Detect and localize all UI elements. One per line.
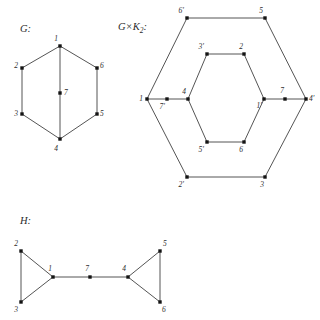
graph-g-vertex-label-2: 2	[14, 61, 18, 70]
graph-h-edge-3-1	[21, 277, 53, 302]
graph-h-edge-4-5	[128, 251, 160, 277]
graph-g-caption: G:	[20, 23, 31, 34]
graph-gk2-edge-2p-1	[147, 99, 187, 177]
graph-gk2-vertex-2	[242, 52, 245, 55]
graph-gk2-vertex-label-2: 2	[239, 42, 243, 51]
graph-g-vertex-label-4: 4	[54, 144, 58, 153]
graph-h-vertex-label-5: 5	[163, 239, 167, 248]
graph-gk2-vertex-label-3p: 3′	[198, 42, 205, 51]
graph-h-vertex-layer: 2317456	[13, 239, 167, 314]
graph-h-vertex-1	[51, 275, 54, 278]
graph-gk2-vertex-3	[263, 175, 266, 178]
graph-figure-canvas: G: G×K2: H: 1234567 6′54′32′13′21′65′47′…	[0, 0, 320, 320]
graph-g-vertex-4	[58, 137, 61, 140]
graph-gk2-vertex-layer: 6′54′32′13′21′65′47′7	[139, 6, 315, 189]
graph-h-edge-4-6	[128, 277, 160, 302]
graph-g-edge-1-2	[22, 46, 60, 68]
graph-gk2-vertex-1	[145, 97, 148, 100]
graph-g-vertex-3	[20, 112, 23, 115]
graph-g-vertex-layer: 1234567	[13, 34, 104, 153]
graph-h-vertex-4	[126, 275, 129, 278]
graph-gk2-edge-1-6p	[147, 18, 187, 99]
graph-gk2-vertex-label-2p: 2′	[179, 180, 185, 189]
graph-h-vertex-label-4: 4	[122, 264, 126, 273]
graph-gk2-vertex-6	[242, 140, 245, 143]
graph-gk2-vertex-label-6p: 6′	[179, 6, 185, 15]
graph-gk2-vertex-label-3: 3	[259, 180, 264, 189]
graph-gk2-vertex-label-6: 6	[239, 145, 243, 154]
graph-gk2-vertex-label-1p: 1′	[257, 101, 263, 110]
graph-g-edge-6-1	[60, 46, 97, 68]
graph-gk2-vertex-3p	[205, 52, 208, 55]
graph-h-vertex-label-7: 7	[85, 264, 89, 273]
graph-gk2-caption-colon: :	[143, 21, 147, 32]
graph-gk2-caption: G×K2:	[118, 21, 147, 35]
graph-g-vertex-label-3: 3	[13, 109, 18, 118]
graph-gk2-vertex-4	[186, 97, 189, 100]
graph-g-vertex-5	[95, 112, 98, 115]
graph-h-vertex-label-1: 1	[48, 264, 52, 273]
graph-g-edge-4-5	[60, 114, 97, 139]
graph-gk2-vertex-label-5: 5	[259, 6, 263, 15]
graph-gk2-edge-5-4p	[265, 18, 306, 99]
graph-h-vertex-6	[158, 300, 161, 303]
graph-g-vertex-7	[58, 91, 61, 94]
graph-gk2-vertex-7p	[165, 97, 168, 100]
graph-gk2-panel: 6′54′32′13′21′65′47′7	[139, 6, 315, 189]
graph-g-vertex-label-7: 7	[64, 88, 68, 97]
graph-gk2-vertex-label-5p: 5′	[199, 145, 205, 154]
graph-g-panel: 1234567	[13, 34, 104, 153]
graph-gk2-edge-5p-4	[188, 99, 207, 142]
graph-gk2-caption-main: G×K	[118, 21, 141, 32]
graph-h-vertex-2	[19, 249, 22, 252]
graph-gk2-vertex-label-4: 4	[182, 87, 186, 96]
graph-h-vertex-5	[158, 249, 161, 252]
graph-h-panel: 2317456	[13, 239, 167, 314]
graph-h-vertex-label-2: 2	[14, 239, 18, 248]
graph-gk2-vertex-label-7p: 7′	[160, 102, 166, 111]
graph-gk2-vertex-6p	[185, 16, 188, 19]
graph-gk2-edge-2-1p	[244, 54, 264, 99]
graph-g-vertex-label-6: 6	[100, 61, 104, 70]
graph-h-vertex-7	[88, 275, 91, 278]
graph-g-edge-3-4	[22, 114, 60, 139]
graph-g-vertex-6	[95, 66, 98, 69]
graph-gk2-vertex-2p	[185, 175, 188, 178]
graph-gk2-vertex-4p	[304, 97, 307, 100]
graph-gk2-edge-4p-3	[265, 99, 306, 177]
graph-gk2-vertex-label-1: 1	[139, 94, 143, 103]
graph-gk2-vertex-label-7: 7	[280, 86, 284, 95]
graph-g-vertex-2	[20, 66, 23, 69]
graph-gk2-edge-4-3p	[188, 54, 207, 99]
graph-gk2-vertex-5	[263, 16, 266, 19]
graph-g-vertex-label-1: 1	[54, 34, 58, 43]
graph-g-vertex-1	[58, 44, 61, 47]
graph-gk2-vertex-1p	[262, 97, 265, 100]
graph-h-vertex-3	[19, 300, 22, 303]
graph-h-caption: H:	[19, 215, 31, 226]
graph-gk2-vertex-7	[283, 97, 286, 100]
graph-gk2-vertex-label-4p: 4′	[309, 94, 315, 103]
graph-g-vertex-label-5: 5	[100, 109, 104, 118]
graph-gk2-vertex-5p	[205, 140, 208, 143]
graph-h-vertex-label-6: 6	[162, 305, 166, 314]
graph-gk2-edge-layer	[147, 18, 306, 177]
figure-root: G: G×K2: H: 1234567 6′54′32′13′21′65′47′…	[0, 0, 320, 320]
graph-h-vertex-label-3: 3	[13, 305, 18, 314]
